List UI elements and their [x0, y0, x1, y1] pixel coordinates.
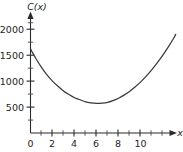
x-axis-title: x [176, 127, 183, 138]
cost-curve [31, 34, 176, 103]
plot-area: 2000 1500 1000 500 0 2 4 6 8 10 C(x) x [0, 0, 183, 152]
x-tick-label-10: 10 [134, 138, 146, 149]
y-tick-label-1500: 1500 [0, 50, 24, 61]
x-tick-label-4: 4 [71, 138, 77, 149]
x-tick-label-2: 2 [49, 138, 55, 149]
x-tick-label-6: 6 [93, 138, 99, 149]
y-tick-label-500: 500 [6, 102, 24, 113]
y-axis-arrow-icon [27, 12, 33, 20]
y-tick-label-1000: 1000 [0, 76, 24, 87]
x-tick-label-0: 0 [27, 138, 33, 149]
x-axis-arrow-icon [170, 130, 178, 136]
y-tick-label-2000: 2000 [0, 24, 24, 35]
y-axis-title: C(x) [27, 1, 47, 12]
x-tick-label-8: 8 [115, 138, 121, 149]
cost-function-graph: 2000 1500 1000 500 0 2 4 6 8 10 C(x) x [0, 0, 183, 152]
